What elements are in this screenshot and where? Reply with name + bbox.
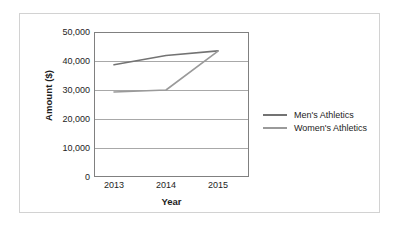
y-axis-tick-labels: 010,00020,00030,00040,00050,000 — [38, 14, 90, 214]
x-axis-title: Year — [94, 196, 249, 207]
y-tick-label: 30,000 — [38, 85, 90, 95]
legend-item[interactable]: Men's Athletics — [263, 108, 379, 121]
x-tick-label: 2015 — [196, 180, 240, 190]
y-tick-label: 20,000 — [38, 114, 90, 124]
x-tick-label: 2014 — [144, 180, 188, 190]
y-tick-label: 40,000 — [38, 56, 90, 66]
legend-label: Women's Athletics — [294, 123, 367, 133]
y-tick-label: 50,000 — [38, 27, 90, 37]
legend-line-icon — [263, 127, 287, 129]
plot-area — [94, 32, 249, 177]
legend-item[interactable]: Women's Athletics — [263, 121, 379, 134]
legend-line-icon — [263, 114, 287, 116]
series-lines — [94, 32, 249, 177]
legend-label: Men's Athletics — [294, 110, 354, 120]
x-tick-label: 2013 — [92, 180, 136, 190]
chart-figure-frame: Amount ($) 010,00020,00030,00040,00050,0… — [19, 13, 380, 213]
series-line — [114, 51, 218, 92]
y-tick-label: 10,000 — [38, 143, 90, 153]
line-chart: Amount ($) 010,00020,00030,00040,00050,0… — [20, 14, 381, 214]
y-tick-label: 0 — [38, 172, 90, 182]
x-axis-tick-labels: 201320142015 — [94, 180, 269, 194]
chart-legend: Men's AthleticsWomen's Athletics — [263, 108, 379, 134]
